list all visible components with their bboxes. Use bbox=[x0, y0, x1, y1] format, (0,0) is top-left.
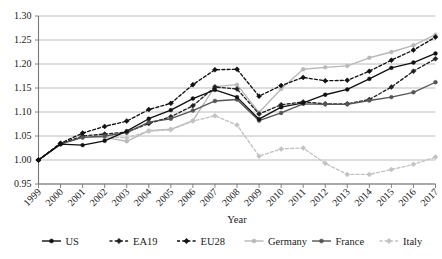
y-tick-label: 1.15 bbox=[14, 82, 32, 93]
data-point-eu28-2012 bbox=[323, 78, 328, 83]
data-point-italy-2014 bbox=[367, 172, 372, 177]
data-point-us-2010 bbox=[279, 105, 283, 109]
data-point-france-2012 bbox=[323, 102, 327, 106]
data-point-france-2010 bbox=[279, 111, 283, 115]
legend-label-france: France bbox=[336, 236, 365, 247]
chart-canvas: 0.951.001.051.101.151.201.251.3019992000… bbox=[0, 0, 442, 259]
legend-item-italy[interactable]: Italy bbox=[380, 236, 423, 247]
data-point-italy-2007 bbox=[212, 113, 217, 118]
data-point-eu28-2011 bbox=[301, 75, 306, 80]
data-point-italy-2017 bbox=[433, 155, 438, 160]
legend-label-italy: Italy bbox=[403, 236, 423, 247]
data-point-us-2012 bbox=[323, 93, 327, 97]
x-tick-label: 2004 bbox=[131, 186, 153, 208]
data-point-germany-2015 bbox=[389, 50, 393, 54]
data-point-germany-2014 bbox=[367, 56, 371, 60]
legend-marker-us bbox=[49, 239, 53, 243]
data-point-eu28-2016 bbox=[411, 48, 416, 53]
data-point-us-2007 bbox=[213, 88, 217, 92]
legend-item-ea19[interactable]: EA19 bbox=[110, 236, 158, 247]
data-point-italy-2013 bbox=[345, 172, 350, 177]
data-point-germany-2011 bbox=[301, 67, 305, 71]
data-point-italy-2011 bbox=[301, 146, 306, 151]
data-point-us-2017 bbox=[434, 51, 438, 55]
data-point-france-2006 bbox=[191, 109, 195, 113]
data-point-france-2002 bbox=[103, 134, 107, 138]
y-tick-label: 1.20 bbox=[14, 58, 32, 69]
series-ea19 bbox=[36, 56, 438, 162]
legend-item-eu28[interactable]: EU28 bbox=[177, 236, 225, 247]
data-point-eu28-2014 bbox=[367, 69, 372, 74]
data-point-us-2003 bbox=[125, 129, 129, 133]
x-tick-label: 2009 bbox=[242, 186, 264, 208]
legend-item-france[interactable]: France bbox=[312, 236, 364, 247]
x-tick-label: 2005 bbox=[154, 186, 176, 208]
x-tick-label: 2003 bbox=[109, 186, 131, 208]
data-point-us-2009 bbox=[257, 117, 261, 121]
data-point-us-2006 bbox=[191, 97, 195, 101]
legend-label-eu28: EU28 bbox=[201, 236, 226, 247]
legend-marker-germany bbox=[252, 239, 256, 243]
legend-marker-italy bbox=[386, 238, 391, 243]
x-tick-label: 2012 bbox=[308, 186, 330, 208]
data-point-france-2007 bbox=[213, 99, 217, 103]
data-point-germany-2016 bbox=[411, 43, 415, 47]
data-point-eu28-2003 bbox=[124, 119, 129, 124]
data-point-us-2015 bbox=[389, 66, 393, 70]
y-tick-label: 1.25 bbox=[14, 34, 32, 45]
x-tick-label: 2015 bbox=[374, 186, 396, 208]
x-tick-label: 2013 bbox=[330, 186, 352, 208]
legend-label-germany: Germany bbox=[268, 236, 308, 247]
x-tick-label: 1999 bbox=[21, 186, 43, 208]
data-point-france-2013 bbox=[345, 102, 349, 106]
y-tick-label: 1.10 bbox=[14, 106, 32, 117]
data-point-france-2001 bbox=[81, 135, 85, 139]
x-tick-label: 2014 bbox=[352, 186, 374, 208]
y-tick-label: 0.95 bbox=[14, 178, 32, 189]
data-point-italy-2008 bbox=[235, 122, 240, 127]
data-point-italy-2015 bbox=[389, 167, 394, 172]
series-italy bbox=[36, 113, 438, 177]
legend-label-ea19: EA19 bbox=[133, 236, 158, 247]
legend-label-us: US bbox=[66, 236, 80, 247]
data-point-us-2014 bbox=[367, 77, 371, 81]
data-point-italy-2016 bbox=[411, 162, 416, 167]
x-tick-label: 2017 bbox=[418, 186, 440, 208]
x-tick-label: 2007 bbox=[198, 186, 220, 208]
data-point-us-2011 bbox=[301, 101, 305, 105]
data-point-eu28-2004 bbox=[146, 107, 151, 112]
legend-marker-eu28 bbox=[184, 238, 189, 243]
legend-item-germany[interactable]: Germany bbox=[245, 236, 308, 247]
legend-item-us[interactable]: US bbox=[42, 236, 79, 247]
x-tick-label: 2010 bbox=[264, 186, 286, 208]
data-point-eu28-2002 bbox=[102, 124, 107, 129]
data-point-france-2016 bbox=[411, 90, 415, 94]
x-axis-labels: 1999200020012002200320042005200620072008… bbox=[21, 184, 440, 208]
data-point-france-2015 bbox=[389, 95, 393, 99]
x-tick-label: 2000 bbox=[43, 186, 65, 208]
data-point-italy-2006 bbox=[190, 119, 195, 124]
series-france bbox=[37, 80, 438, 162]
series-line-france bbox=[39, 82, 436, 160]
data-point-eu28-2015 bbox=[389, 58, 394, 63]
x-tick-label: 2008 bbox=[220, 186, 242, 208]
y-tick-label: 1.00 bbox=[14, 154, 32, 165]
data-point-france-2014 bbox=[367, 99, 371, 103]
legend-marker-france bbox=[319, 239, 323, 243]
x-axis-title: Year bbox=[227, 214, 247, 225]
x-tick-label: 2002 bbox=[87, 186, 109, 208]
x-tick-label: 2016 bbox=[396, 186, 418, 208]
x-tick-label: 2011 bbox=[286, 186, 308, 208]
data-point-italy-2010 bbox=[279, 146, 284, 151]
data-point-us-2001 bbox=[81, 143, 85, 147]
x-tick-label: 2006 bbox=[176, 186, 198, 208]
data-point-us-2016 bbox=[411, 61, 415, 65]
data-point-germany-2008 bbox=[235, 83, 239, 87]
data-point-us-2004 bbox=[147, 117, 151, 121]
data-point-france-2017 bbox=[434, 80, 438, 84]
x-tick-label: 2001 bbox=[65, 186, 87, 208]
y-tick-label: 1.30 bbox=[14, 10, 32, 21]
data-point-us-2005 bbox=[169, 108, 173, 112]
legend-marker-ea19 bbox=[116, 238, 121, 243]
data-point-france-2005 bbox=[169, 117, 173, 121]
